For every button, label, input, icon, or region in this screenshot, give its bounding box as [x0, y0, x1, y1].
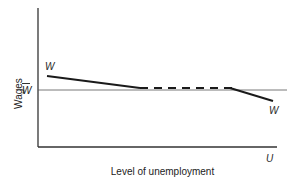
x-axis-end-label: U: [266, 154, 273, 164]
wage-curve-left-segment: [47, 76, 140, 88]
reference-line-label: W: [22, 85, 31, 96]
wage-diagram-canvas: [0, 0, 293, 182]
x-axis-label: Level of unemployment: [100, 166, 225, 177]
curve-label-end: W: [269, 106, 278, 116]
curve-label-start: W: [45, 62, 54, 72]
